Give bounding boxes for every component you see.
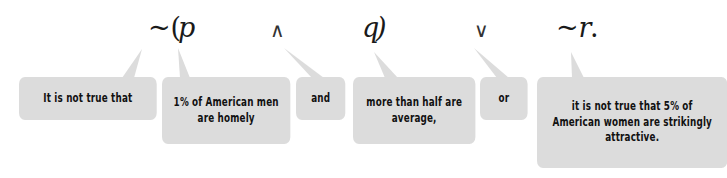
callout-or: or xyxy=(480,77,528,120)
period-symbol: . xyxy=(590,14,599,41)
not-r-symbol: ~r xyxy=(556,14,592,41)
pointer-or xyxy=(474,48,509,78)
pointer-q xyxy=(374,52,398,78)
pointer-negation xyxy=(122,49,142,78)
pointer-p xyxy=(178,48,190,78)
or-symbol: ∨ xyxy=(474,20,489,40)
callout-negation: It is not true that xyxy=(19,77,157,120)
variable-p: p xyxy=(178,14,195,41)
callout-p: 1% of American men are homely xyxy=(162,77,290,144)
pointer-and xyxy=(284,48,324,78)
close-paren-symbol: ) xyxy=(376,14,387,41)
and-symbol: ∧ xyxy=(270,20,285,40)
callout-and: and xyxy=(296,77,345,120)
callout-q: more than half are average, xyxy=(353,77,475,144)
callout-not-r: it is not true that 5% of American women… xyxy=(537,77,727,168)
pointer-not-r xyxy=(571,52,584,78)
negation-paren-symbol: ~( xyxy=(148,14,181,41)
